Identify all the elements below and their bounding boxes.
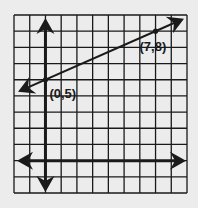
data-point bbox=[153, 29, 158, 34]
coordinate-plane: (0,5) (7,8) bbox=[0, 0, 198, 208]
line-start-arrow-icon bbox=[14, 77, 36, 100]
line-series bbox=[14, 10, 187, 100]
line-end-arrow-icon bbox=[166, 10, 188, 33]
label-point-0-5: (0,5) bbox=[49, 86, 76, 101]
data-point bbox=[43, 77, 48, 82]
label-point-7-8: (7,8) bbox=[140, 39, 167, 54]
